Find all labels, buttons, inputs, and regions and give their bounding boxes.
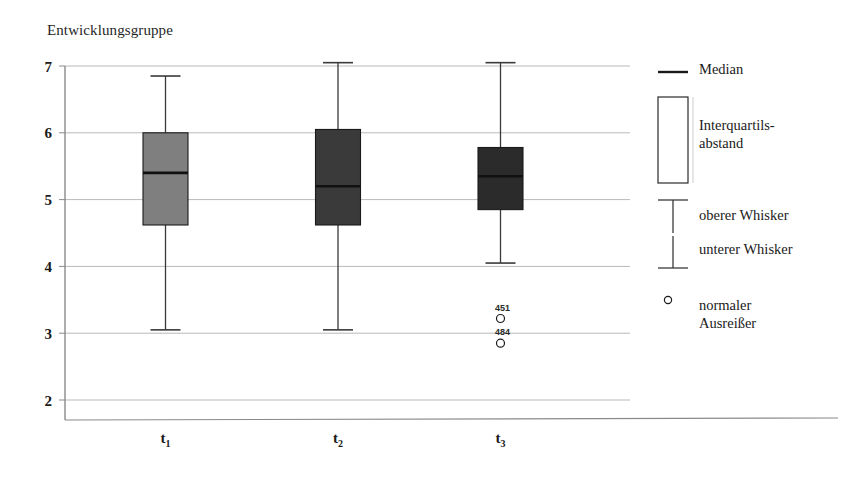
legend-label-lower-whisker: unterer Whisker [699,240,793,258]
legend-iqr-box-icon [658,97,688,183]
legend-label-iqr: Interquartils- abstand [699,116,775,152]
legend-label-upper-whisker: oberer Whisker [699,206,789,224]
figure-root: Entwicklungsgruppe 234567t1t2451484t3 Me… [0,0,841,478]
legend-label-outlier: normaler Ausreißer [699,296,756,332]
legend-outlier-circle-icon [664,296,671,303]
legend-label-median: Median [699,60,743,78]
legend: Median Interquartils- abstand oberer Whi… [0,0,841,478]
